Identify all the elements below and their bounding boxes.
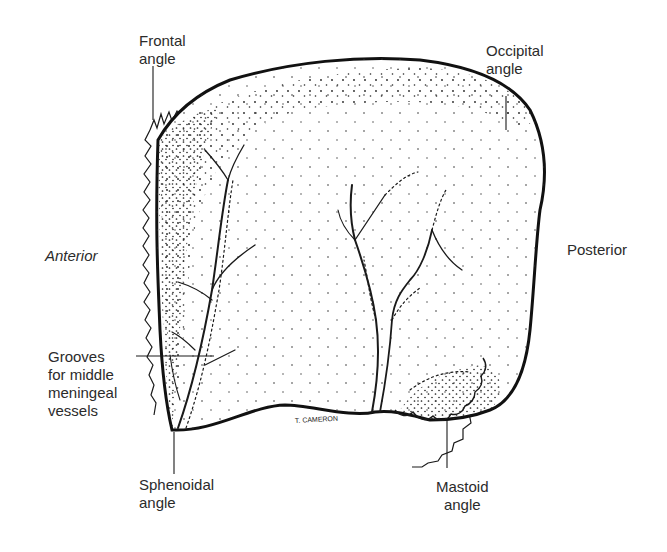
label-occipital-angle: Occipital angle	[486, 42, 544, 78]
label-sphenoidal-angle: Sphenoidal angle	[139, 476, 214, 512]
stipple-shading	[150, 50, 550, 440]
label-mastoid-angle: Mastoid angle	[436, 478, 489, 514]
label-anterior: Anterior	[45, 247, 98, 265]
label-posterior: Posterior	[567, 241, 627, 259]
label-meningeal-grooves: Grooves for middle meningeal vessels	[48, 348, 117, 420]
artist-signature: T. CAMERON	[295, 415, 338, 424]
parietal-bone-diagram: T. CAMERON	[0, 0, 667, 552]
label-frontal-angle: Frontal angle	[139, 32, 186, 68]
